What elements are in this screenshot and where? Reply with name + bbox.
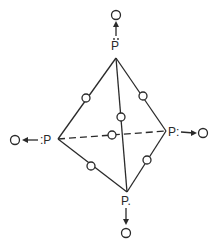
bridge-oxygen-left-right (108, 131, 116, 139)
bridge-oxygen-right-bottom (143, 156, 151, 164)
arrow-up-icon (113, 21, 119, 27)
label-p-right: P: (168, 125, 179, 139)
arrow-right-icon (191, 130, 197, 136)
terminal-oxygen-right (199, 129, 208, 138)
bridge-oxygen-top-right (139, 92, 147, 100)
terminal-oxygen-left (11, 136, 20, 145)
arrow-left-icon (22, 137, 28, 143)
terminal-oxygen-top (112, 11, 121, 20)
label-p-top: P (111, 39, 119, 53)
label-p-left: :P (40, 133, 51, 147)
terminal-oxygen-bottom (122, 229, 131, 238)
tetrahedron-diagram: P :P P: P. (0, 0, 218, 250)
bridge-oxygen-top-bottom (117, 113, 125, 121)
bridge-oxygen-left-bottom (87, 162, 95, 170)
lone-pair-dot-top-2 (117, 38, 119, 40)
bridge-oxygen-top-left (82, 94, 90, 102)
lone-pair-dot-top-1 (113, 38, 115, 40)
arrow-down-icon (123, 219, 129, 225)
label-p-bottom: P. (121, 194, 131, 208)
edge-top-bottom (116, 58, 127, 192)
